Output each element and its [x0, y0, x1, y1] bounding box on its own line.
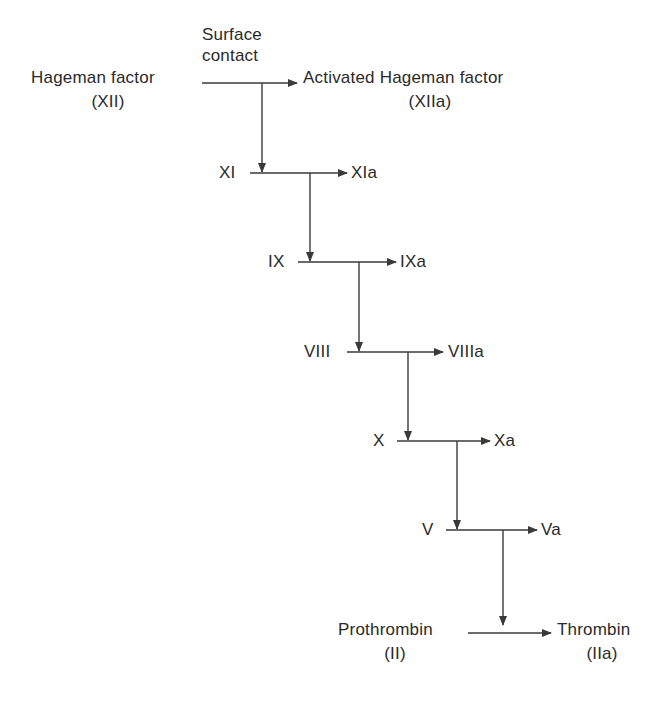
node-xia: XIa: [351, 163, 377, 182]
node-thrombin-code: (IIa): [580, 644, 624, 663]
node-prothrombin: Prothrombin: [338, 620, 433, 639]
node-hageman-factor-code: (XII): [88, 92, 128, 111]
trigger-label-surface: Surface: [202, 25, 262, 44]
node-ixa: IXa: [400, 252, 426, 271]
node-viii: VIII: [304, 342, 330, 361]
node-xa: Xa: [494, 431, 515, 450]
node-va: Va: [541, 520, 561, 539]
node-thrombin: Thrombin: [557, 620, 630, 639]
node-viiia: VIIIa: [448, 342, 484, 361]
trigger-label-contact: contact: [202, 46, 258, 65]
node-prothrombin-code: (II): [377, 644, 413, 663]
node-hageman-factor: Hageman factor: [31, 68, 155, 87]
node-xi: XI: [219, 163, 235, 182]
node-x: X: [373, 431, 385, 450]
coagulation-cascade-diagram: Surface contact Hageman factor (XII) Act…: [0, 0, 671, 701]
node-activated-hageman-factor: Activated Hageman factor: [303, 68, 503, 87]
node-ix: IX: [268, 252, 284, 271]
node-v: V: [422, 520, 434, 539]
node-activated-hageman-factor-code: (XIIa): [400, 92, 460, 111]
